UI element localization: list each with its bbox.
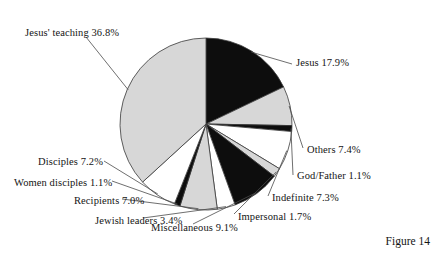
leader-line-god-father	[291, 129, 293, 176]
slice-label-disciples: Disciples 7.2%	[38, 156, 103, 167]
slice-label-god-father: God/Father 1.1%	[297, 170, 371, 181]
figure-container: Jesus' teaching 36.8% Jesus 17.9% Others…	[0, 0, 436, 255]
slice-label-jesus-teaching: Jesus' teaching 36.8%	[25, 27, 119, 38]
slice-label-jesus: Jesus 17.9%	[296, 57, 349, 68]
slice-label-others: Others 7.4%	[307, 144, 361, 155]
figure-caption: Figure 14	[386, 235, 430, 247]
pie-slices-group	[120, 38, 292, 210]
pie-chart	[0, 0, 436, 255]
slice-label-indefinite: Indefinite 7.3%	[272, 192, 339, 203]
slice-label-recipients: Recipients 7.0%	[74, 195, 144, 206]
slice-label-jewish-leaders: Jewish leaders 3.4%	[95, 215, 182, 226]
leader-line-jesus-teaching	[86, 37, 128, 90]
slice-label-women-disciples: Women disciples 1.1%	[14, 177, 112, 188]
slice-label-impersonal: Impersonal 1.7%	[238, 211, 311, 222]
